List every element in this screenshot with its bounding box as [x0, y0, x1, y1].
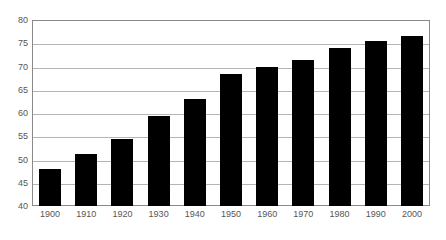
bar-slot — [394, 20, 430, 206]
y-axis-tick-label: 70 — [2, 62, 28, 71]
bar-slot — [104, 20, 140, 206]
y-axis-tick-label: 40 — [2, 202, 28, 211]
bar-slot — [321, 20, 357, 206]
bar-1980[interactable] — [329, 48, 351, 206]
x-axis-tick-label: 1920 — [104, 210, 140, 219]
bar-slot — [249, 20, 285, 206]
y-axis-tick-label: 80 — [2, 16, 28, 25]
bar-1950[interactable] — [220, 74, 242, 206]
bar-1940[interactable] — [184, 99, 206, 206]
x-axis-tick-label: 1910 — [68, 210, 104, 219]
x-axis-tick-label: 1980 — [321, 210, 357, 219]
bar-slot — [213, 20, 249, 206]
bar-1990[interactable] — [365, 41, 387, 206]
bar-1930[interactable] — [148, 116, 170, 206]
bar-slot — [141, 20, 177, 206]
x-axis: 1900191019201930194019501960197019801990… — [32, 210, 430, 226]
x-axis-tick-label: 1930 — [141, 210, 177, 219]
x-axis-tick-label: 1940 — [177, 210, 213, 219]
bar-slot — [177, 20, 213, 206]
bar-slot — [68, 20, 104, 206]
x-axis-tick-label: 1900 — [32, 210, 68, 219]
bar-slot — [358, 20, 394, 206]
x-axis-tick-label: 2000 — [394, 210, 430, 219]
x-axis-tick-label: 1950 — [213, 210, 249, 219]
bar-1960[interactable] — [256, 67, 278, 207]
x-axis-tick-label: 1960 — [249, 210, 285, 219]
bar-chart: 404550556065707580 190019101920193019401… — [0, 0, 446, 240]
bar-1970[interactable] — [292, 60, 314, 206]
bar-2000[interactable] — [401, 36, 423, 206]
x-axis-tick-label: 1990 — [358, 210, 394, 219]
x-axis-tick-label: 1970 — [285, 210, 321, 219]
bar-slot — [32, 20, 68, 206]
bars-layer — [32, 20, 430, 206]
y-axis-tick-label: 50 — [2, 155, 28, 164]
y-axis-tick-label: 65 — [2, 85, 28, 94]
bar-slot — [285, 20, 321, 206]
y-axis-tick-label: 45 — [2, 178, 28, 187]
y-axis-tick-label: 75 — [2, 39, 28, 48]
y-axis-tick-label: 60 — [2, 109, 28, 118]
y-axis-tick-label: 55 — [2, 132, 28, 141]
bar-1900[interactable] — [39, 169, 61, 206]
bar-1920[interactable] — [111, 139, 133, 206]
bar-1910[interactable] — [75, 154, 97, 206]
